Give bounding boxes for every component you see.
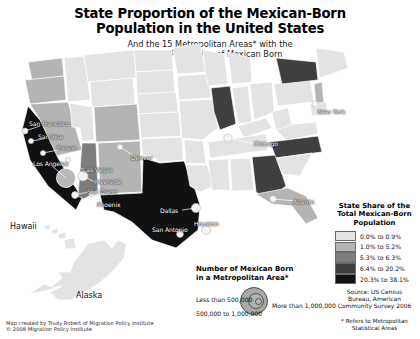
metro-label-san-francisco: San Francisco — [29, 120, 70, 127]
state-legend-classes: 0.0% to 0.9% 1.0% to 5.2% 5.3% to 6.3% 6… — [329, 231, 420, 284]
legend-class-row: 5.3% to 6.3% — [335, 253, 420, 263]
metro-label-houston: Houston — [194, 220, 219, 227]
state-nebraska — [137, 92, 178, 114]
state-arkansas — [184, 140, 206, 164]
inset-label-hawaii: Hawaii — [10, 222, 37, 231]
state-alabama — [230, 158, 254, 191]
state-colorado — [94, 104, 140, 142]
state-pennsylvania — [274, 80, 314, 106]
metro-label-san-jose: San Jose — [38, 133, 63, 140]
state-oregon — [25, 76, 66, 104]
state-minnesota — [173, 44, 206, 74]
metro-label-dallas: Dallas — [160, 207, 178, 214]
legend-swatch-class-1 — [335, 231, 356, 242]
circle-legend-label-large: More than 1,000,000 — [272, 302, 336, 309]
legend-label-class-4: 6.4% to 20.2% — [360, 265, 405, 272]
source-note: Source: US Census Bureau, American Commu… — [329, 289, 420, 311]
metro-label-atlanta: Atlanta — [293, 198, 314, 205]
metro-label-san-diego: San Diego — [87, 188, 117, 195]
map-credit: Map created by Trudy Robert of Migration… — [6, 320, 154, 333]
legend-swatch-class-2 — [335, 242, 356, 253]
state-new-york — [276, 58, 318, 84]
state-montana — [84, 50, 136, 82]
source-line3: Community Survey 2006 — [329, 303, 420, 310]
state-hawaii-oahu — [52, 228, 58, 234]
state-florida — [256, 188, 318, 224]
circle-legend-label-medium: 500,000 to 1,000,000 — [196, 310, 262, 317]
metro-size-legend: Number of Mexican Born in a Metropolitan… — [196, 265, 342, 320]
state-share-legend: State Share of the Total Mexican-Born Po… — [329, 202, 420, 311]
legend-swatch-class-3 — [335, 252, 356, 263]
state-new-england — [316, 48, 348, 78]
legend-class-row: 0.0% to 0.9% — [335, 231, 420, 241]
state-iowa — [177, 74, 211, 100]
legend-label-class-1: 0.0% to 0.9% — [360, 233, 401, 240]
source-line2: Bureau, American — [329, 296, 420, 303]
state-north-dakota — [134, 50, 173, 72]
source-line1: Source: US Census — [329, 289, 420, 296]
state-hawaii-maui — [58, 232, 66, 239]
circle-legend-title-line2: in a Metropolitan Area* — [196, 274, 342, 283]
metro-label-chicago: Chicago — [254, 140, 278, 147]
metro-label-phoenix: Phoenix — [97, 201, 120, 208]
state-ohio — [250, 82, 274, 120]
state-hawaii-kauai — [44, 224, 50, 230]
state-wyoming — [90, 78, 135, 107]
metro-label-new-york: New York — [318, 108, 345, 115]
circle-legend-label-small: Less than 500,000 — [196, 296, 252, 303]
circle-legend-body: Less than 500,000 500,000 to 1,000,000 M… — [196, 286, 342, 320]
metro-label-riverside: Riverside — [94, 178, 121, 185]
map-figure: State Proportion of the Mexican-Born Pop… — [0, 0, 420, 339]
credit-line2: © 2008 Migration Policy Institute — [6, 326, 154, 332]
metro-label-denver: Denver — [131, 154, 153, 161]
legend-class-row: 6.4% to 20.2% — [335, 264, 420, 274]
state-hawaii-big — [64, 238, 76, 249]
state-legend-title-line2: Total Mexican-Born — [329, 210, 420, 218]
legend-label-class-3: 5.3% to 6.3% — [360, 254, 401, 261]
msa-footnote: * Refers to Metropolitan Statistical Are… — [329, 318, 420, 332]
state-south-dakota — [136, 70, 175, 94]
state-mississippi — [208, 159, 230, 190]
state-legend-title-line3: Population — [329, 219, 420, 227]
state-wisconsin — [203, 50, 228, 86]
legend-label-class-2: 1.0% to 5.2% — [360, 243, 401, 250]
legend-class-row: 20.3% to 38.1% — [335, 274, 420, 284]
metro-label-las-vegas: Las Vegas — [83, 166, 113, 173]
inset-label-alaska: Alaska — [76, 291, 102, 300]
state-michigan — [228, 52, 252, 84]
legend-label-class-5: 20.3% to 38.1% — [360, 276, 409, 283]
metro-label-fresno: Fresno — [57, 144, 76, 151]
state-legend-title-line1: State Share of the — [329, 202, 420, 210]
state-missouri — [179, 99, 218, 140]
metro-label-san-antonio: San Antonio — [152, 226, 188, 233]
legend-class-row: 1.0% to 5.2% — [335, 242, 420, 252]
circle-legend-title-line1: Number of Mexican Born — [196, 265, 342, 274]
state-kansas — [139, 112, 181, 138]
metro-label-los-angeles: Los Angeles — [33, 160, 68, 167]
